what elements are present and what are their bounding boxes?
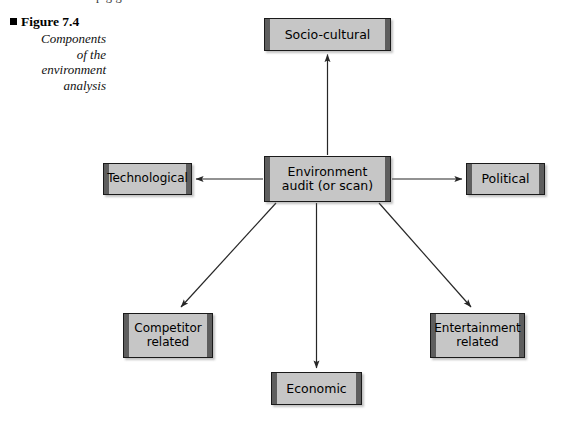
node-competitor-related[interactable]: Competitor related: [123, 313, 213, 358]
node-environment-audit-line-2: audit (or scan): [282, 178, 373, 193]
node-entertainment-related[interactable]: Entertainment related: [430, 313, 525, 358]
connector-center-to-competitor: [181, 203, 276, 307]
node-economic[interactable]: Economic: [271, 372, 362, 405]
diagram-canvas: Socio-cultural Technological Environment…: [0, 0, 583, 425]
node-technological-label: Technological: [98, 172, 197, 185]
node-socio-cultural[interactable]: Socio-cultural: [264, 18, 391, 51]
node-environment-audit-label: Environment audit (or scan): [273, 165, 382, 193]
node-entertainment-related-label: Entertainment related: [425, 322, 530, 349]
figure-page: p g g n Figure 7.4 Components of the env…: [0, 0, 583, 425]
node-competitor-related-label: Competitor related: [125, 322, 210, 349]
node-economic-label: Economic: [277, 382, 356, 396]
node-competitor-related-line-2: related: [147, 335, 189, 349]
node-environment-audit-line-1: Environment: [288, 164, 368, 179]
node-environment-audit[interactable]: Environment audit (or scan): [264, 156, 391, 202]
node-political-label: Political: [472, 172, 538, 186]
node-competitor-related-line-1: Competitor: [134, 321, 201, 335]
node-entertainment-related-line-2: related: [456, 335, 498, 349]
diagram-connectors: [0, 0, 583, 425]
node-technological[interactable]: Technological: [103, 163, 192, 195]
node-socio-cultural-label: Socio-cultural: [276, 28, 380, 42]
node-entertainment-related-line-1: Entertainment: [434, 321, 521, 335]
connector-center-to-entertainment: [379, 203, 471, 307]
node-political[interactable]: Political: [466, 163, 545, 195]
